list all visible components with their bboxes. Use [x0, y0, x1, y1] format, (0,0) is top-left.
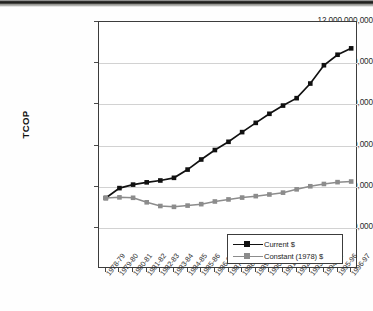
data-point-marker	[185, 203, 190, 208]
data-point-marker	[253, 194, 258, 199]
data-point-marker	[322, 63, 327, 68]
line-chart: TCOP 2,000,000,0004,000,000,0006,000,000…	[0, 7, 373, 311]
data-point-marker	[213, 199, 218, 204]
series-line	[106, 48, 351, 198]
data-point-marker	[226, 197, 231, 202]
data-point-marker	[322, 182, 327, 187]
data-point-marker	[335, 52, 340, 57]
data-point-marker	[240, 130, 245, 135]
series-line	[106, 182, 351, 207]
legend-label-constant: Constant (1978) $	[264, 252, 323, 261]
data-point-marker	[281, 190, 286, 195]
data-point-marker	[144, 200, 149, 205]
data-point-marker	[349, 179, 354, 184]
data-point-marker	[199, 202, 204, 207]
data-point-marker	[226, 140, 231, 145]
chart-screenshot: TCOP 2,000,000,0004,000,000,0006,000,000…	[0, 0, 373, 311]
chart-legend: Current $ Constant (1978) $	[227, 234, 343, 264]
data-point-marker	[281, 103, 286, 108]
data-point-marker	[172, 205, 177, 210]
legend-item-constant: Constant (1978) $	[232, 250, 338, 262]
legend-item-current: Current $	[232, 238, 338, 250]
data-point-marker	[335, 180, 340, 185]
data-point-marker	[240, 195, 245, 200]
data-point-marker	[158, 178, 163, 183]
data-point-marker	[349, 46, 354, 51]
data-point-marker	[267, 192, 272, 197]
data-point-marker	[131, 195, 136, 200]
data-point-marker	[185, 167, 190, 172]
data-point-marker	[308, 184, 313, 189]
legend-label-current: Current $	[264, 240, 295, 249]
data-point-marker	[213, 148, 218, 153]
x-axis-labels: 1978-791979-801980-811981-821982-831983-…	[98, 272, 373, 311]
data-point-marker	[158, 204, 163, 209]
y-axis-title: TCOP	[20, 90, 31, 160]
data-point-marker	[117, 195, 122, 200]
data-point-marker	[267, 112, 272, 117]
legend-swatch-constant	[232, 251, 264, 261]
data-point-marker	[294, 96, 299, 101]
data-point-marker	[308, 81, 313, 86]
data-point-marker	[294, 187, 299, 192]
data-point-marker	[104, 196, 109, 201]
series-lines	[99, 22, 358, 269]
data-point-marker	[117, 186, 122, 191]
data-point-marker	[199, 157, 204, 162]
legend-swatch-current	[232, 239, 264, 249]
data-point-marker	[131, 182, 136, 187]
plot-area	[98, 21, 357, 268]
data-point-marker	[253, 121, 258, 126]
data-point-marker	[172, 176, 177, 181]
data-point-marker	[144, 180, 149, 185]
